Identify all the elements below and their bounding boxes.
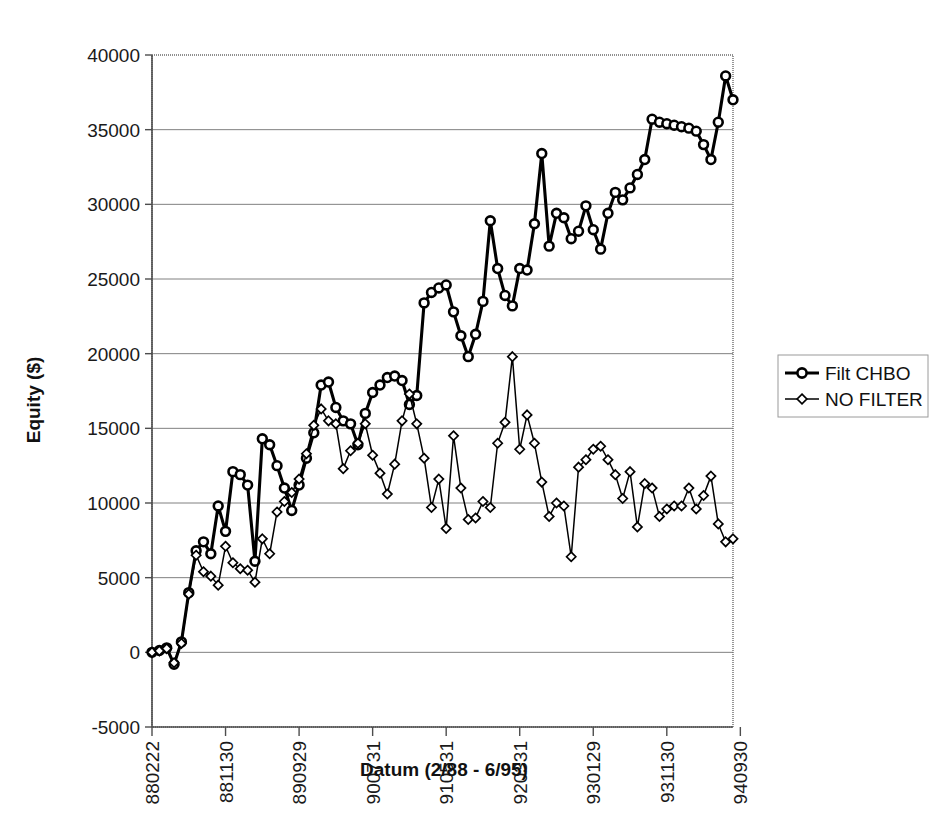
data-point-marker — [537, 477, 546, 486]
data-point-marker — [530, 219, 539, 228]
data-point-marker — [456, 331, 465, 340]
data-point-marker — [692, 504, 701, 513]
data-point-marker — [545, 512, 554, 521]
data-point-marker — [361, 409, 370, 418]
series-filt-chbo — [148, 72, 738, 669]
y-tick-label: 10000 — [87, 493, 140, 514]
y-axis-ticks: -500005000100001500020000250003000035000… — [87, 45, 152, 738]
data-point-marker — [376, 381, 385, 390]
data-point-marker — [368, 388, 377, 397]
data-point-marker — [501, 291, 510, 300]
series-no-filter — [147, 352, 737, 667]
data-point-marker — [287, 506, 296, 515]
data-point-marker — [707, 155, 716, 164]
data-point-marker — [611, 470, 620, 479]
data-point-marker — [545, 242, 554, 251]
data-point-marker — [390, 460, 399, 469]
series-line — [152, 357, 733, 663]
data-point-marker — [523, 266, 532, 275]
data-point-marker — [250, 578, 259, 587]
data-point-marker — [625, 467, 634, 476]
data-point-marker — [243, 566, 252, 575]
data-point-marker — [456, 483, 465, 492]
data-point-marker — [449, 431, 458, 440]
data-point-marker — [692, 127, 701, 136]
y-tick-label: -5000 — [91, 717, 140, 738]
data-point-marker — [596, 245, 605, 254]
x-tick-label: 931130 — [657, 741, 678, 803]
data-point-marker — [530, 439, 539, 448]
data-point-marker — [464, 352, 473, 361]
x-tick-label: 890929 — [289, 741, 310, 804]
data-point-marker — [221, 542, 230, 551]
y-tick-label: 25000 — [87, 269, 140, 290]
data-point-marker — [471, 513, 480, 522]
x-tick-label: 940930 — [730, 741, 751, 804]
chart-canvas: -500005000100001500020000250003000035000… — [0, 0, 939, 832]
data-point-marker — [626, 184, 635, 193]
data-point-marker — [206, 549, 215, 558]
data-point-marker — [582, 201, 591, 210]
equity-curve-chart: -500005000100001500020000250003000035000… — [0, 0, 939, 832]
data-point-marker — [729, 95, 738, 104]
gridlines — [152, 130, 733, 653]
data-point-marker — [486, 216, 495, 225]
data-point-marker — [434, 475, 443, 484]
data-point-marker — [265, 440, 274, 449]
data-point-marker — [236, 470, 245, 479]
data-point-marker — [493, 439, 502, 448]
data-point-marker — [684, 483, 693, 492]
data-point-marker — [603, 455, 612, 464]
data-point-marker — [442, 524, 451, 533]
data-point-marker — [611, 188, 620, 197]
y-tick-label: 15000 — [87, 418, 140, 439]
data-point-marker — [618, 494, 627, 503]
data-point-marker — [537, 149, 546, 158]
data-point-marker — [273, 461, 282, 470]
y-tick-label: 35000 — [87, 120, 140, 141]
data-point-marker — [714, 118, 723, 127]
data-series — [147, 72, 737, 669]
data-point-marker — [339, 464, 348, 473]
data-point-marker — [398, 376, 407, 385]
data-point-marker — [346, 419, 355, 428]
data-point-marker — [721, 72, 730, 81]
data-point-marker — [493, 264, 502, 273]
x-tick-label: 880222 — [142, 741, 163, 804]
data-point-marker — [618, 195, 627, 204]
data-point-marker — [383, 489, 392, 498]
data-point-marker — [567, 234, 576, 243]
data-point-marker — [567, 552, 576, 561]
data-point-marker — [522, 410, 531, 419]
data-point-marker — [633, 170, 642, 179]
y-tick-label: 40000 — [87, 45, 140, 66]
data-point-marker — [324, 378, 333, 387]
legend-label: Filt CHBO — [825, 363, 911, 384]
y-axis-title: Equity ($) — [23, 357, 44, 444]
data-point-marker — [449, 307, 458, 316]
data-point-marker — [714, 519, 723, 528]
data-point-marker — [368, 451, 377, 460]
data-point-marker — [604, 209, 613, 218]
data-point-marker — [420, 454, 429, 463]
data-point-marker — [479, 297, 488, 306]
data-point-marker — [699, 140, 708, 149]
data-point-marker — [508, 301, 517, 310]
data-point-marker — [221, 527, 230, 536]
y-tick-label: 5000 — [98, 568, 140, 589]
data-point-marker — [706, 472, 715, 481]
data-point-marker — [427, 503, 436, 512]
data-point-marker — [471, 330, 480, 339]
data-point-marker — [258, 534, 267, 543]
data-point-marker — [442, 281, 451, 290]
data-point-marker — [331, 403, 340, 412]
data-point-marker — [214, 502, 223, 511]
data-point-marker — [272, 507, 281, 516]
x-axis-title: Datum (2/88 - 6/95) — [360, 759, 528, 780]
data-point-marker — [589, 225, 598, 234]
y-tick-label: 30000 — [87, 194, 140, 215]
data-point-marker — [633, 522, 642, 531]
data-point-marker — [375, 469, 384, 478]
data-point-marker — [420, 298, 429, 307]
data-point-marker — [265, 549, 274, 558]
